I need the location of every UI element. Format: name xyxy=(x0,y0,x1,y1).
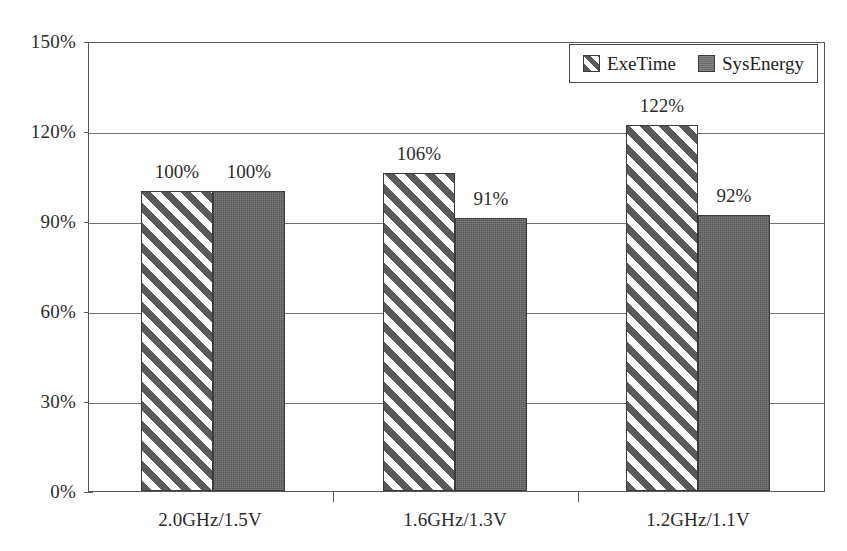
y-tick-label-30: 30% xyxy=(14,391,76,413)
bar-value-exetime-1-6ghz: 106% xyxy=(383,143,455,165)
bar-value-sysenergy-2-0ghz: 100% xyxy=(213,161,285,183)
x-tick-mark-1 xyxy=(333,492,334,502)
y-tick-label-120: 120% xyxy=(14,121,76,143)
y-tick-label-0: 0% xyxy=(14,481,76,503)
bar-sysenergy-1-2ghz xyxy=(698,215,770,491)
bar-sysenergy-2-0ghz xyxy=(213,191,285,491)
x-tick-mark-2 xyxy=(578,492,579,502)
x-category-label-1: 1.6GHz/1.3V xyxy=(355,509,555,531)
y-tick-label-60: 60% xyxy=(14,301,76,323)
legend-label-exetime: ExeTime xyxy=(607,53,676,75)
legend: ExeTime SysEnergy xyxy=(569,44,818,83)
legend-item-exetime: ExeTime xyxy=(583,53,676,75)
y-tick-label-90: 90% xyxy=(14,211,76,233)
y-tick-label-150: 150% xyxy=(14,31,76,53)
solid-swatch-icon xyxy=(698,55,715,72)
gridline-120 xyxy=(89,133,824,134)
x-category-label-2: 1.2GHz/1.1V xyxy=(598,509,798,531)
bar-value-sysenergy-1-2ghz: 92% xyxy=(698,185,770,207)
hatch-swatch-icon xyxy=(583,55,600,72)
plot-area: 100% 100% 106% 91% 122% 92% ExeTime SysE… xyxy=(88,42,825,492)
legend-label-sysenergy: SysEnergy xyxy=(722,53,804,75)
x-category-label-0: 2.0GHz/1.5V xyxy=(110,509,310,531)
bar-exetime-1-6ghz xyxy=(383,173,455,491)
bar-value-exetime-2-0ghz: 100% xyxy=(141,161,213,183)
bar-exetime-1-2ghz xyxy=(626,125,698,491)
bar-exetime-2-0ghz xyxy=(141,191,213,491)
bar-value-sysenergy-1-6ghz: 91% xyxy=(455,188,527,210)
bar-value-exetime-1-2ghz: 122% xyxy=(626,95,698,117)
legend-item-sysenergy: SysEnergy xyxy=(698,53,804,75)
bar-sysenergy-1-6ghz xyxy=(455,218,527,491)
bar-chart-figure: 150% 120% 90% 60% 30% 0% 100% 100% 106% … xyxy=(0,0,847,551)
y-tick-mark-0 xyxy=(84,492,93,493)
